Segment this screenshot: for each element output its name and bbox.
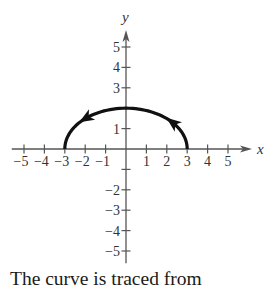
- y-tick-label: 4: [113, 60, 120, 75]
- x-tick-label: 4: [204, 154, 211, 169]
- x-axis-label: x: [256, 141, 264, 157]
- axes: [12, 30, 252, 263]
- y-tick-label: −4: [105, 224, 120, 239]
- x-tick-label: 3: [184, 154, 191, 169]
- y-tick-label: 3: [113, 81, 120, 96]
- y-tick-label: 5: [113, 40, 120, 55]
- x-tick-label: 5: [225, 154, 232, 169]
- y-axis-label: y: [120, 9, 129, 25]
- y-tick-label: −2: [105, 183, 120, 198]
- y-tick-label: −5: [105, 244, 120, 259]
- y-tick-label: −3: [105, 203, 120, 218]
- y-tick-label: 1: [113, 122, 120, 137]
- x-tick-label: −1: [95, 154, 110, 169]
- x-tick-label: 1: [143, 154, 150, 169]
- x-tick-label: −4: [34, 154, 49, 169]
- x-tick-label: −5: [14, 154, 29, 169]
- caption-text: The curve is traced from: [10, 268, 202, 290]
- x-tick-label: 2: [163, 154, 170, 169]
- x-tick-label: −3: [54, 154, 69, 169]
- parametric-plot: −5−4−3−2−1123455431−2−3−4−5 x y: [0, 0, 275, 265]
- x-tick-label: −2: [75, 154, 90, 169]
